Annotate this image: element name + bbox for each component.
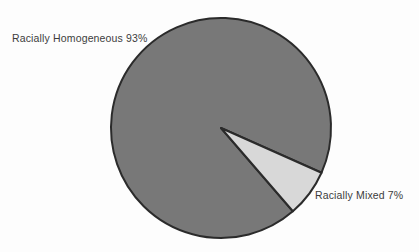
pie-label-racially-homogeneous: Racially Homogeneous 93% — [12, 32, 148, 45]
pie-label-racially-mixed: Racially Mixed 7% — [315, 189, 403, 202]
pie-chart-figure: Racially Homogeneous 93% Racially Mixed … — [0, 0, 419, 252]
